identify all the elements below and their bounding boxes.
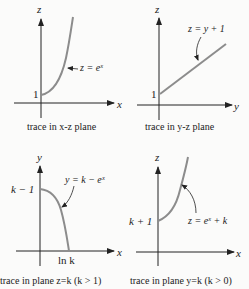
intercept-label: k + 1 xyxy=(129,216,152,227)
intercept-label: 1 xyxy=(33,89,39,100)
panel-yk xyxy=(136,157,234,266)
label-pointer xyxy=(62,186,74,207)
axis-label-z: z xyxy=(155,152,159,163)
curve-label: z = eˣ + k xyxy=(188,216,227,226)
caption-zk: trace in plane z=k (k > 1) xyxy=(0,276,101,286)
caption-xz: trace in x-z plane xyxy=(27,122,96,132)
curve-label: z = y + 1 xyxy=(188,24,225,34)
axis-label-y: y xyxy=(37,152,42,163)
caption-yz: trace in y-z plane xyxy=(145,122,214,132)
line-y-plus-1 xyxy=(160,44,226,94)
label-pointer xyxy=(197,37,201,60)
label-pointer xyxy=(182,185,196,213)
intercept-label: 1 xyxy=(151,89,157,100)
y-intercept-label: k − 1 xyxy=(11,184,34,195)
caption-yk: trace in plane y=k (k > 0) xyxy=(130,276,232,286)
label-pointer xyxy=(68,68,78,69)
axis-label-y: y xyxy=(234,101,239,112)
axis-label-z: z xyxy=(155,4,159,15)
axis-label-x: x xyxy=(117,99,122,110)
curve-label: y = k − eˣ xyxy=(65,175,105,185)
curve-label: z = eˣ xyxy=(80,63,103,73)
curve-exp xyxy=(41,17,73,95)
curve-k-minus-exp xyxy=(40,189,69,251)
axis-label-z: z xyxy=(37,4,41,15)
axis-label-x: x xyxy=(236,248,241,259)
figure-graphics xyxy=(0,0,249,289)
axis-label-x: x xyxy=(117,247,122,258)
curve-exp-plus-k xyxy=(158,157,188,221)
x-intercept-label: ln k xyxy=(58,255,75,266)
